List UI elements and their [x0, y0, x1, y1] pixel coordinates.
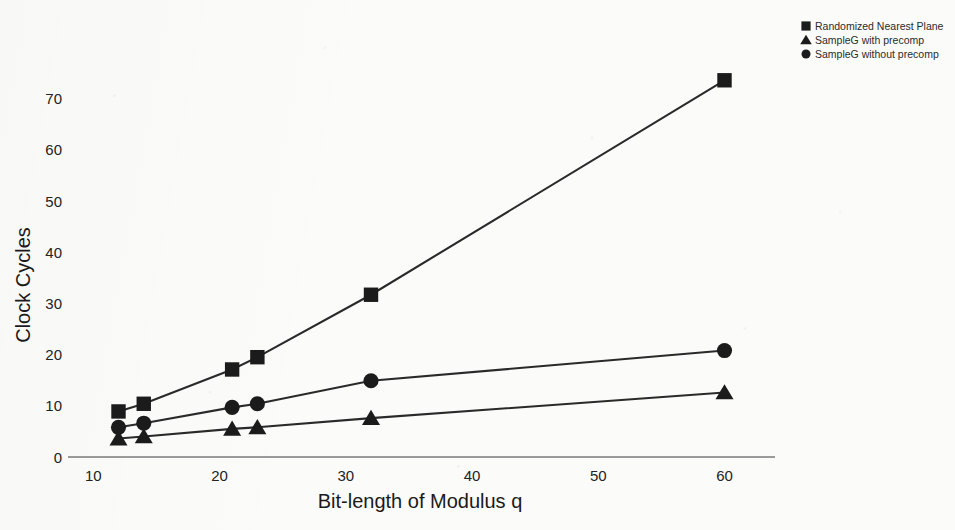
y-axis-tick-label: 70	[45, 90, 62, 107]
legend-item[interactable]: Randomized Nearest Plane	[801, 20, 943, 32]
square-marker-icon	[364, 288, 378, 302]
legend-item[interactable]: SampleG without precomp	[801, 48, 938, 60]
y-axis-tick-label: 40	[45, 244, 62, 261]
legend-item-label: Randomized Nearest Plane	[815, 20, 944, 32]
circle-marker-icon	[225, 400, 240, 415]
data-series	[111, 73, 731, 419]
y-axis-title: Clock Cycles	[12, 227, 34, 343]
x-axis-tick-label: 10	[85, 467, 102, 484]
square-marker-icon	[717, 73, 731, 87]
square-marker-icon	[137, 397, 151, 411]
y-axis-tick-label: 10	[45, 397, 62, 414]
chart-container: 010203040506070 102030405060 Clock Cycle…	[0, 0, 955, 530]
circle-marker-icon	[801, 49, 810, 58]
square-marker-icon	[801, 21, 810, 30]
y-axis-tick-label: 20	[45, 346, 62, 363]
x-axis-tick-label: 20	[211, 467, 228, 484]
y-axis-tick-label: 50	[45, 193, 62, 210]
chart-legend: Randomized Nearest PlaneSampleG with pre…	[800, 20, 943, 60]
square-marker-icon	[225, 362, 239, 376]
square-marker-icon	[111, 404, 125, 418]
square-marker-icon	[250, 350, 264, 364]
legend-item-label: SampleG without precomp	[815, 48, 939, 60]
series-line	[119, 351, 725, 428]
x-axis-tick-label: 40	[464, 467, 481, 484]
series-line	[119, 393, 725, 439]
legend-item-label: SampleG with precomp	[815, 34, 924, 46]
x-axis-tick-label: 60	[716, 467, 733, 484]
series-line	[119, 80, 725, 411]
y-axis-tick-labels: 010203040506070	[45, 90, 62, 465]
y-axis-tick-label: 60	[45, 141, 62, 158]
data-series	[111, 343, 732, 435]
circle-marker-icon	[250, 396, 265, 411]
circle-marker-icon	[136, 416, 151, 431]
chart-plot-area: 010203040506070 102030405060 Clock Cycle…	[0, 0, 955, 530]
circle-marker-icon	[363, 373, 378, 388]
x-axis-tick-labels: 102030405060	[85, 467, 733, 484]
y-axis-tick-label: 0	[54, 449, 62, 466]
y-axis-tick-label: 30	[45, 295, 62, 312]
data-series-layer	[110, 73, 734, 445]
x-axis-tick-label: 30	[337, 467, 354, 484]
legend-item[interactable]: SampleG with precomp	[800, 34, 924, 46]
circle-marker-icon	[717, 343, 732, 358]
x-axis-tick-label: 50	[590, 467, 607, 484]
triangle-marker-icon	[716, 384, 734, 399]
circle-marker-icon	[111, 420, 126, 435]
triangle-marker-icon	[800, 35, 812, 45]
x-axis-title: Bit-length of Modulus q	[318, 490, 523, 512]
data-series	[110, 384, 734, 445]
